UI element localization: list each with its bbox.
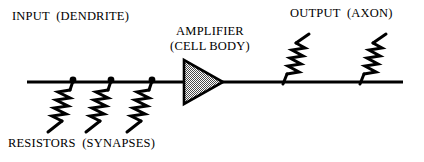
amplifier-label-line2: (CELL BODY) [155,39,265,53]
axon-resistor-2 [360,34,386,84]
output-label: OUTPUT (AXON) [290,6,393,20]
junction-dot-3 [149,77,156,84]
amplifier-label-line1: AMPLIFIER [155,24,265,38]
amplifier-triangle [184,60,223,104]
resistors-label: RESISTORS (SYNAPSES) [8,136,155,150]
junction-dot-1 [70,77,77,84]
neuron-analogy-diagram: INPUT (DENDRITE) AMPLIFIER (CELL BODY) O… [0,0,424,162]
synapse-resistor-1 [48,81,73,132]
junction-dot-2 [108,77,115,84]
axon-resistor-1 [283,34,309,84]
input-label: INPUT (DENDRITE) [12,9,129,23]
synapse-resistor-3 [127,81,152,132]
synapse-resistor-2 [86,81,111,132]
